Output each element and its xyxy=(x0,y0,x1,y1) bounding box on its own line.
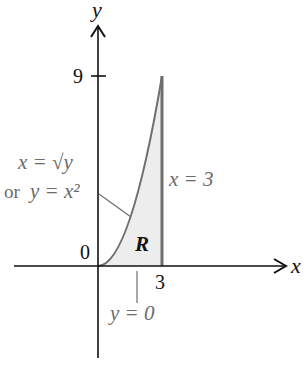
x-axis-label: x xyxy=(290,253,301,278)
region-r-fill xyxy=(98,76,162,266)
y-axis-label: y xyxy=(90,0,102,22)
x-tick-label-3: 3 xyxy=(155,271,165,293)
origin-label: 0 xyxy=(80,241,90,263)
curve-label-or: or xyxy=(4,181,21,202)
curve-label-square: y = x² xyxy=(28,179,80,203)
y-tick-label-9: 9 xyxy=(73,65,83,87)
y-equals-0-label: y = 0 xyxy=(108,301,155,325)
x-equals-3-label: x = 3 xyxy=(168,167,214,191)
diagram-svg: y x 9 0 3 x = √y or y = x² x = 3 R y = 0 xyxy=(0,0,308,371)
curve-label-leader xyxy=(99,194,131,217)
region-diagram: y x 9 0 3 x = √y or y = x² x = 3 R y = 0 xyxy=(0,0,308,371)
region-label: R xyxy=(134,232,149,256)
curve-label-sqrt: x = √y xyxy=(17,150,74,174)
